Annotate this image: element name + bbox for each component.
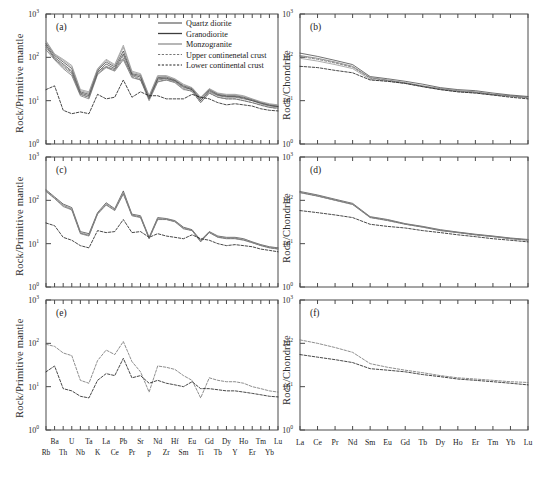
x-label-ree-Pr: Pr [332, 438, 339, 447]
legend-label-4: Lower continental crust [186, 61, 264, 70]
series-line [300, 340, 528, 383]
y-tick-label: 102 [28, 194, 39, 205]
panel-tag-d: (d) [310, 165, 321, 176]
x-label-ree-Dy: Dy [436, 438, 446, 447]
x-label-Nd: Nd [153, 437, 162, 446]
x-label-Eu: Eu [188, 437, 197, 446]
x-label-Sr: Sr [137, 437, 144, 446]
series-line [300, 211, 528, 242]
series-line [300, 56, 528, 97]
y-axis-title-f: Rock/Chondrite [281, 335, 292, 405]
x-label-ree-Nd: Nd [348, 438, 358, 447]
plot-frame [46, 300, 278, 430]
x-label-Pb: Pb [119, 437, 127, 446]
x-label-ree-Tb: Tb [418, 438, 427, 447]
legend-label-2: Monzogranite [186, 40, 232, 49]
x-label-ree-Yb: Yb [506, 438, 516, 447]
x-label-Nb: Nb [76, 448, 85, 457]
x-label-La: La [102, 437, 111, 446]
series-line [46, 220, 278, 252]
y-tick-label: 101 [28, 238, 39, 249]
x-label-Zr: Zr [163, 448, 171, 457]
x-label-ree-Gd: Gd [400, 438, 410, 447]
x-label-K: K [95, 448, 101, 457]
panel-f: 100101102103(f) [282, 294, 528, 435]
panel-tag-a: (a) [56, 22, 67, 33]
series-line [300, 192, 528, 240]
x-label-ree-Ce: Ce [313, 438, 322, 447]
x-label-Gd: Gd [205, 437, 214, 446]
series-line [300, 191, 528, 239]
y-tick-label: 102 [28, 337, 39, 348]
plot-frame [300, 157, 528, 287]
y-tick-label: 102 [28, 51, 39, 62]
x-label-Yb: Yb [265, 448, 274, 457]
y-axis-title-c: Rock/Primitive mantle [14, 176, 25, 276]
y-tick-label: 103 [28, 151, 39, 162]
x-label-Y: Y [232, 448, 238, 457]
x-label-ree-Sm: Sm [365, 438, 375, 447]
y-tick-label: 100 [282, 424, 293, 435]
x-label-Th: Th [59, 448, 68, 457]
x-label-ree-La: La [296, 438, 305, 447]
plot-frame [300, 14, 528, 144]
x-label-Rb: Rb [42, 448, 51, 457]
y-tick-label: 101 [28, 95, 39, 106]
x-label-ree-Eu: Eu [383, 438, 392, 447]
legend: Quartz dioriteGranodioriteMonzograniteUp… [158, 19, 267, 70]
y-tick-label: 100 [282, 281, 293, 292]
x-label-Ba: Ba [50, 437, 59, 446]
x-label-ree-Tm: Tm [488, 438, 499, 447]
panel-e: 100101102103(e) [28, 294, 278, 435]
series-line [300, 53, 528, 96]
series-line [46, 191, 278, 249]
y-tick-label: 103 [282, 8, 293, 19]
y-tick-label: 100 [28, 424, 39, 435]
x-label-ree-Er: Er [472, 438, 480, 447]
y-axis-title-b: Rock/Chondrite [281, 50, 292, 120]
x-label-Lu: Lu [274, 437, 283, 446]
legend-label-3: Upper continenetal crust [186, 51, 267, 60]
series-line [300, 355, 528, 385]
x-label-Sm: Sm [179, 448, 189, 457]
y-axis-title-e: Rock/Primitive mantle [14, 318, 25, 418]
y-tick-label: 100 [282, 138, 293, 149]
x-axis-labels-spider: RbBaThUNbTaKLaCePbPrSrpNdZrHfSmEuTiGdTbD… [42, 437, 283, 457]
figure-root: Rock/Primitive mantle Rock/Primitive man… [0, 0, 533, 492]
x-label-ree-Lu: Lu [524, 438, 533, 447]
panel-a: 100101102103(a) [28, 8, 278, 149]
series-line [46, 358, 278, 398]
series-line [300, 56, 528, 98]
y-tick-label: 103 [28, 294, 39, 305]
y-tick-label: 100 [28, 138, 39, 149]
panel-c: 100101102103(c) [28, 151, 278, 292]
x-axis-labels-ree: LaCePrNdSmEuGdTbDyHoErTmYbLu [296, 438, 533, 447]
panel-tag-c: (c) [56, 165, 67, 176]
panel-tag-f: (f) [310, 308, 320, 319]
y-tick-label: 100 [28, 281, 39, 292]
x-label-Ta: Ta [85, 437, 93, 446]
y-tick-label: 103 [282, 294, 293, 305]
x-label-Hf: Hf [171, 437, 179, 446]
x-label-Ce: Ce [111, 448, 120, 457]
x-label-Tb: Tb [214, 448, 223, 457]
panel-tag-e: (e) [56, 308, 67, 319]
x-label-Pr: Pr [129, 448, 136, 457]
series-line [46, 342, 278, 398]
plot-frame [46, 157, 278, 287]
panel-b: 100101102103(b) [282, 8, 528, 149]
x-label-ree-Ho: Ho [453, 438, 463, 447]
y-axis-title-a: Rock/Primitive mantle [14, 33, 25, 133]
panel-d: 100101102103(d) [282, 151, 528, 292]
x-label-Tm: Tm [256, 437, 267, 446]
y-tick-label: 103 [282, 151, 293, 162]
legend-label-1: Granodiorite [186, 30, 228, 39]
plot-canvas: 100101102103(a)100101102103(b)1001011021… [0, 0, 533, 492]
series-line [300, 58, 528, 98]
plot-frame [300, 300, 528, 430]
y-axis-title-d: Rock/Chondrite [281, 193, 292, 263]
y-tick-label: 101 [28, 381, 39, 392]
x-label-Dy: Dy [222, 437, 231, 446]
panel-tag-b: (b) [310, 22, 321, 33]
x-label-p: p [147, 448, 151, 457]
